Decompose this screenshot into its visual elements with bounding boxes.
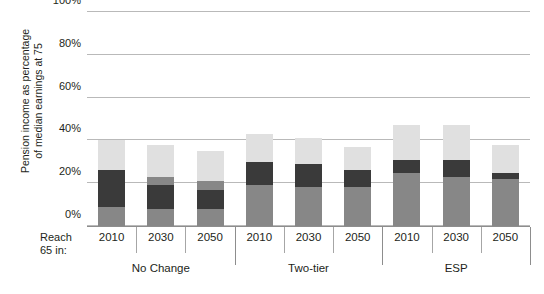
y-tick-label: 0% — [65, 208, 81, 220]
bar — [246, 134, 273, 226]
bar-segment — [147, 145, 174, 177]
bar-segment — [443, 125, 470, 159]
bar — [393, 125, 420, 226]
x-tick-mark — [185, 227, 186, 253]
bar-segment — [197, 209, 224, 226]
group-separator — [530, 227, 531, 265]
y-axis-title: Pension income as percentage of median e… — [19, 11, 45, 191]
y-tick-label: 80% — [59, 37, 81, 49]
bar-segment — [492, 145, 519, 173]
group-label-no-change: No Change — [132, 262, 190, 274]
bar-segment — [197, 190, 224, 209]
bar-segment — [246, 134, 273, 162]
bar-segment — [147, 209, 174, 226]
bar — [197, 151, 224, 226]
bar-segment — [295, 187, 322, 226]
bar-segment — [295, 138, 322, 164]
bar-segment — [443, 177, 470, 226]
group-label-two-tier: Two-tier — [288, 262, 329, 274]
x-tick-label-no-change-2030: 2030 — [148, 231, 174, 243]
bar-segment — [344, 147, 371, 171]
x-tick-label-esp-2030: 2030 — [443, 231, 469, 243]
bar-segment — [393, 173, 420, 227]
y-tick-label: 60% — [59, 80, 81, 92]
y-tick-label: 40% — [59, 122, 81, 134]
bar-segment — [98, 170, 125, 206]
bar-segment — [295, 164, 322, 188]
bar-segment — [246, 185, 273, 226]
bar-segment — [443, 160, 470, 177]
x-tick-mark — [284, 227, 285, 253]
x-tick-mark — [432, 227, 433, 253]
x-axis-prefix-label: Reach 65 in: — [40, 231, 72, 257]
x-tick-mark — [481, 227, 482, 253]
bar — [492, 145, 519, 226]
bar-segment — [393, 160, 420, 173]
bar — [98, 140, 125, 226]
bar-segment — [492, 179, 519, 226]
x-tick-mark — [136, 227, 137, 253]
bar-segment — [393, 125, 420, 159]
bar — [295, 138, 322, 226]
x-tick-label-two-tier-2050: 2050 — [345, 231, 371, 243]
x-tick-label-esp-2010: 2010 — [394, 231, 420, 243]
group-separator — [235, 227, 236, 265]
bar-segment — [147, 185, 174, 209]
bar-segment — [344, 187, 371, 226]
bar-segment — [147, 177, 174, 186]
bar — [443, 125, 470, 226]
y-tick-label: 100% — [53, 0, 81, 6]
x-tick-mark — [333, 227, 334, 253]
plot-area: 0%20%40%60%80%100% — [87, 12, 530, 226]
x-tick-label-esp-2050: 2050 — [493, 231, 519, 243]
bar-series — [87, 12, 530, 226]
bar-segment — [197, 151, 224, 181]
bar-segment — [98, 140, 125, 170]
bar — [344, 147, 371, 226]
bar-segment — [98, 207, 125, 226]
bar-segment — [344, 170, 371, 187]
x-tick-label-no-change-2010: 2010 — [99, 231, 125, 243]
bar-segment — [197, 181, 224, 190]
y-tick-label: 20% — [59, 165, 81, 177]
x-axis-baseline — [87, 226, 530, 227]
x-tick-label-no-change-2050: 2050 — [197, 231, 223, 243]
x-tick-label-two-tier-2010: 2010 — [246, 231, 272, 243]
bar — [147, 145, 174, 226]
x-tick-label-two-tier-2030: 2030 — [296, 231, 322, 243]
bar-segment — [246, 162, 273, 186]
group-separator — [382, 227, 383, 265]
stacked-bar-chart: Pension income as percentage of median e… — [0, 0, 544, 294]
group-label-esp: ESP — [445, 262, 468, 274]
